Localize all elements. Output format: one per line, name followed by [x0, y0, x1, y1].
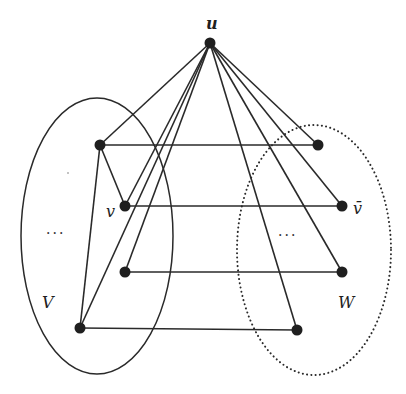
- node-v: [120, 201, 131, 212]
- nodes: [75, 38, 348, 336]
- right-ellipsis: ···: [278, 227, 297, 243]
- label-set-w: W: [338, 293, 356, 312]
- internal-edges: [80, 145, 125, 328]
- stray-dot: [67, 172, 69, 174]
- label-vbar: v̄: [353, 199, 362, 218]
- set-w-ellipse: [237, 125, 391, 375]
- node-r1: [313, 140, 324, 151]
- label-set-v: V: [42, 293, 55, 312]
- edge-l1-l4: [80, 145, 100, 328]
- edge-l4-r4: [80, 328, 297, 330]
- node-u: [205, 38, 216, 49]
- label-v: v: [106, 202, 115, 221]
- matching-edges: [80, 145, 342, 330]
- edge-u-l3: [125, 43, 210, 272]
- node-l3: [120, 267, 131, 278]
- label-u: u: [206, 14, 218, 33]
- edge-u-vbar: [210, 43, 342, 206]
- node-l1: [95, 140, 106, 151]
- edge-u-l4: [80, 43, 210, 328]
- edge-l1-v: [100, 145, 125, 206]
- node-r4: [292, 325, 303, 336]
- node-vbar: [337, 201, 348, 212]
- set-v-ellipse: [21, 98, 173, 374]
- apex-edges: [80, 43, 342, 330]
- edge-u-l1: [100, 43, 210, 145]
- graph-diagram: u v v̄ V W ··· ···: [0, 0, 406, 394]
- edge-u-r4: [210, 43, 297, 330]
- edge-u-r3: [210, 43, 342, 272]
- node-l4: [75, 323, 86, 334]
- node-r3: [337, 267, 348, 278]
- left-ellipsis: ···: [46, 225, 65, 241]
